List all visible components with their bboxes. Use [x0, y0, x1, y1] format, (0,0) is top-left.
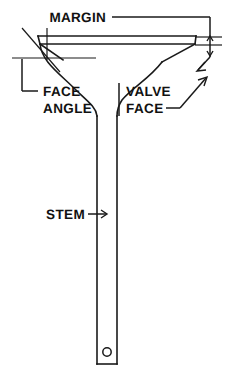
- face-angle-label-line2: ANGLE: [43, 101, 92, 116]
- face-angle-label-line1: FACE: [43, 84, 81, 99]
- face-angle-construction-lines: [12, 28, 96, 72]
- margin-left-end: [38, 36, 40, 44]
- valve-face-leader-diagonal: [180, 78, 206, 108]
- margin-label: MARGIN: [49, 10, 106, 25]
- valve-diagram-container: MARGIN FACE ANGLE: [0, 0, 227, 378]
- margin-right-end: [195, 36, 196, 44]
- stem-callout: STEM: [46, 207, 107, 222]
- valve-diagram-svg: MARGIN FACE ANGLE: [0, 0, 227, 378]
- valve-face-callout: VALVE FACE: [119, 77, 207, 116]
- keeper-pin-hole: [103, 348, 111, 356]
- valve-face-right-bevel: [162, 44, 195, 62]
- valve-face-label-line1: VALVE: [126, 84, 171, 99]
- valve-face-label-line2: FACE: [126, 101, 164, 116]
- stem-label: STEM: [46, 207, 85, 222]
- margin-lower-arrow-icon: [197, 62, 206, 71]
